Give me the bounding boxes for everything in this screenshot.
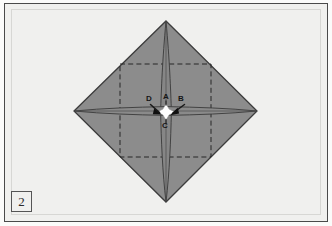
origami-step-figure: A B C D 2: [0, 0, 332, 226]
point-label-d: D: [146, 95, 152, 103]
point-label-b: B: [178, 95, 184, 103]
point-label-a: A: [163, 93, 169, 101]
point-label-c: C: [162, 122, 168, 130]
origami-diagram-canvas: [0, 0, 332, 226]
step-number-box: 2: [11, 191, 32, 212]
